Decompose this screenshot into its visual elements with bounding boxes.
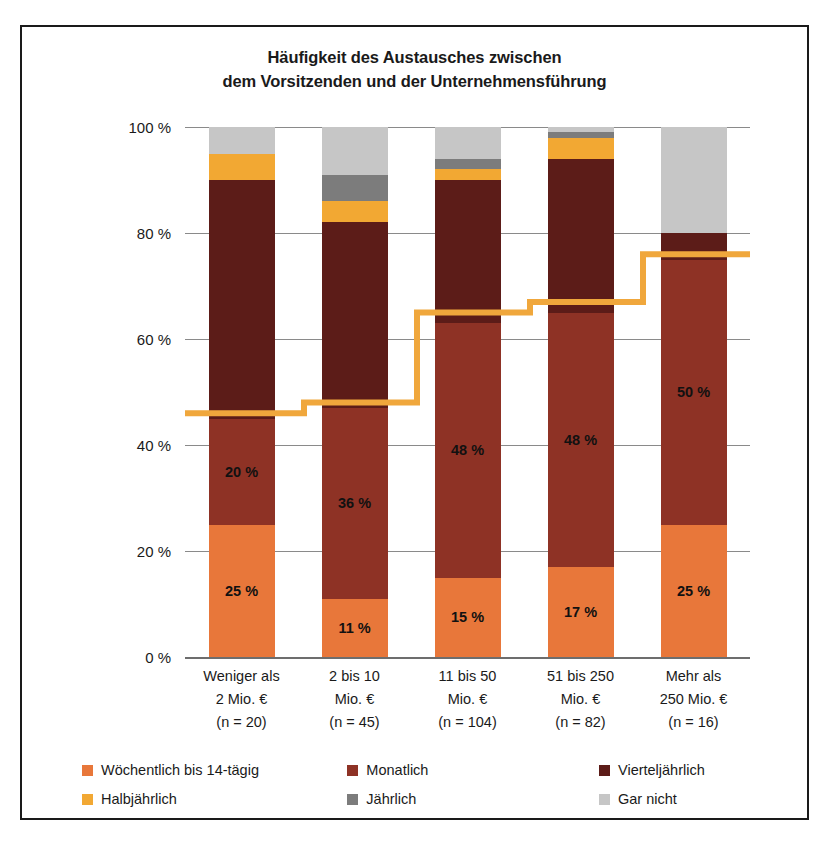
bar-segment: 50 % (661, 260, 727, 525)
bar-segment (209, 180, 275, 419)
bar-segment (435, 127, 501, 159)
bar-segment (435, 169, 501, 180)
bar-value-label: 11 % (338, 620, 370, 636)
plot-area: 0 %20 %40 %60 %80 %100 % 25 %20 %11 %36 … (185, 127, 750, 657)
legend-item[interactable]: Vierteljährlich (599, 762, 782, 778)
x-axis-label-4: Mehr als250 Mio. €(n = 16) (629, 665, 759, 734)
x-axis-label-line: Mio. € (290, 688, 420, 711)
bar-segment: 25 % (661, 525, 727, 658)
y-axis-tick-60: 60 % (91, 331, 171, 348)
bar-value-label: 17 % (564, 604, 597, 620)
legend-swatch-icon (599, 765, 610, 776)
bar-segment (322, 127, 388, 175)
bar-segment (209, 127, 275, 154)
legend-label: Jährlich (366, 791, 416, 807)
chart-legend: Wöchentlich bis 14-tägigMonatlichViertel… (82, 762, 782, 820)
x-axis-label-line: (n = 20) (177, 711, 307, 734)
x-axis-label-line: (n = 45) (290, 711, 420, 734)
bar-value-label: 20 % (225, 464, 258, 480)
bar-segment: 48 % (435, 323, 501, 577)
bar-3[interactable]: 17 %48 % (548, 127, 614, 657)
x-axis-label-line: (n = 104) (403, 711, 533, 734)
bar-segment (661, 127, 727, 233)
bar-value-label: 48 % (451, 442, 484, 458)
x-axis-label-line: Mio. € (403, 688, 533, 711)
bar-segment (322, 222, 388, 408)
legend-label: Wöchentlich bis 14-tägig (101, 762, 259, 778)
legend-label: Monatlich (366, 762, 428, 778)
legend-swatch-icon (82, 794, 93, 805)
legend-label: Gar nicht (618, 791, 677, 807)
bar-value-label: 50 % (677, 384, 710, 400)
legend-label: Vierteljährlich (618, 762, 705, 778)
bar-value-label: 48 % (564, 432, 597, 448)
bar-value-label: 36 % (338, 495, 371, 511)
bar-segment: 15 % (435, 578, 501, 658)
bar-segment (548, 132, 614, 137)
legend-label: Halbjährlich (101, 791, 177, 807)
x-axis-label-line: 51 bis 250 (516, 665, 646, 688)
x-axis-label-line: Mio. € (516, 688, 646, 711)
bar-segment: 17 % (548, 567, 614, 657)
bar-segment: 25 % (209, 525, 275, 658)
y-axis-tick-20: 20 % (91, 543, 171, 560)
legend-swatch-icon (82, 765, 93, 776)
bar-segment (548, 159, 614, 313)
legend-row-0: Wöchentlich bis 14-tägigMonatlichViertel… (82, 762, 782, 778)
x-axis-label-2: 11 bis 50Mio. €(n = 104) (403, 665, 533, 734)
bar-value-label: 25 % (677, 583, 710, 599)
x-axis-label-line: (n = 16) (629, 711, 759, 734)
bar-segment (322, 175, 388, 202)
bar-segment (548, 127, 614, 132)
bar-4[interactable]: 25 %50 % (661, 127, 727, 657)
legend-swatch-icon (599, 794, 610, 805)
legend-item[interactable]: Halbjährlich (82, 791, 347, 807)
bar-value-label: 15 % (451, 609, 484, 625)
legend-swatch-icon (347, 794, 358, 805)
bar-segment: 48 % (548, 313, 614, 567)
y-axis-tick-0: 0 % (91, 649, 171, 666)
chart-title-line-2: dem Vorsitzenden und der Unternehmensfüh… (22, 69, 807, 93)
bar-1[interactable]: 11 %36 % (322, 127, 388, 657)
x-axis-label-0: Weniger als2 Mio. €(n = 20) (177, 665, 307, 734)
y-axis-tick-80: 80 % (91, 225, 171, 242)
chart-title: Häufigkeit des Austausches zwischen dem … (22, 45, 807, 93)
x-axis-label-line: 2 Mio. € (177, 688, 307, 711)
bar-segment: 36 % (322, 408, 388, 599)
x-axis-labels: Weniger als2 Mio. €(n = 20)2 bis 10Mio. … (185, 665, 750, 755)
bar-segment (435, 159, 501, 170)
x-axis-label-line: Weniger als (177, 665, 307, 688)
bar-value-label: 25 % (225, 583, 258, 599)
bar-segment: 20 % (209, 419, 275, 525)
chart-title-line-1: Häufigkeit des Austausches zwischen (22, 45, 807, 69)
y-axis-tick-100: 100 % (91, 119, 171, 136)
bar-segment (435, 180, 501, 323)
x-axis-label-line: 250 Mio. € (629, 688, 759, 711)
bar-0[interactable]: 25 %20 % (209, 127, 275, 657)
y-axis-tick-40: 40 % (91, 437, 171, 454)
legend-item[interactable]: Monatlich (347, 762, 599, 778)
legend-item[interactable]: Jährlich (347, 791, 599, 807)
x-axis-label-line: (n = 82) (516, 711, 646, 734)
chart-frame: Häufigkeit des Austausches zwischen dem … (20, 25, 809, 820)
gridline-0 (185, 657, 750, 659)
legend-item[interactable]: Gar nicht (599, 791, 782, 807)
x-axis-label-line: Mehr als (629, 665, 759, 688)
x-axis-label-line: 11 bis 50 (403, 665, 533, 688)
x-axis-label-line: 2 bis 10 (290, 665, 420, 688)
bar-segment (548, 138, 614, 159)
legend-item[interactable]: Wöchentlich bis 14-tägig (82, 762, 347, 778)
bar-segment: 11 % (322, 599, 388, 657)
x-axis-label-3: 51 bis 250Mio. €(n = 82) (516, 665, 646, 734)
x-axis-label-1: 2 bis 10Mio. €(n = 45) (290, 665, 420, 734)
legend-row-1: HalbjährlichJährlichGar nicht (82, 791, 782, 807)
bar-segment (322, 201, 388, 222)
bar-2[interactable]: 15 %48 % (435, 127, 501, 657)
bar-segment (209, 154, 275, 181)
bar-segment (661, 233, 727, 260)
legend-swatch-icon (347, 765, 358, 776)
